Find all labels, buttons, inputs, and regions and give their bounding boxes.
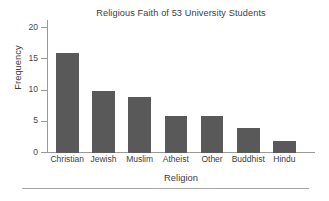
bar [273, 141, 296, 154]
bar-slot [56, 20, 79, 153]
x-axis-label: Religion [47, 172, 315, 183]
bar-slot [237, 20, 260, 153]
bar-slot [165, 20, 188, 153]
bar-slot [273, 20, 296, 153]
x-tick-label: Hindu [256, 155, 312, 164]
bar-slot [92, 20, 115, 153]
y-tick-label: 15 [0, 54, 38, 63]
bar [201, 116, 224, 154]
y-tick-label: 5 [0, 116, 38, 125]
bar-series [47, 20, 315, 153]
y-tick-label: 10 [0, 85, 38, 94]
bar [237, 128, 260, 153]
page-divider-rule [22, 188, 309, 189]
bar-chart-figure: Religious Faith of 53 University Student… [0, 0, 329, 201]
bar-slot [201, 20, 224, 153]
bar [56, 53, 79, 153]
y-tick-label: 0 [0, 148, 38, 157]
y-tick-label: 20 [0, 23, 38, 32]
chart-title: Religious Faith of 53 University Student… [48, 8, 314, 18]
bar [92, 91, 115, 154]
bar-slot [128, 20, 151, 153]
bar [128, 97, 151, 153]
bar [165, 116, 188, 154]
